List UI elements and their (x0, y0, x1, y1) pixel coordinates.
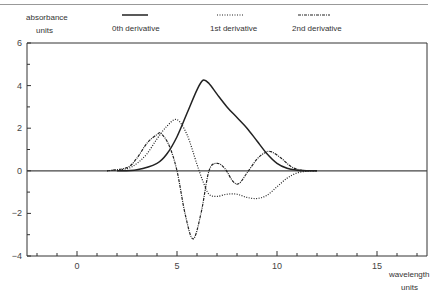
tick-labels: 0510156420−2−4 (12, 38, 382, 271)
x-tick-label: 0 (74, 261, 79, 271)
x-tick-label: 10 (272, 261, 282, 271)
x-tick-label: 5 (174, 261, 179, 271)
curves (107, 80, 317, 239)
series-0-line (117, 80, 317, 171)
y-tick-label: −2 (12, 208, 22, 218)
y-tick-label: 4 (17, 81, 22, 91)
chart-plot: 0510156420−2−4 (0, 0, 441, 299)
x-tick-label: 15 (372, 261, 382, 271)
y-tick-label: 6 (17, 38, 22, 48)
y-tick-label: 0 (17, 166, 22, 176)
series-1-line (107, 119, 317, 198)
series-2-line (107, 133, 317, 239)
y-tick-label: −4 (12, 251, 22, 261)
axes (27, 43, 427, 256)
y-tick-label: 2 (17, 123, 22, 133)
